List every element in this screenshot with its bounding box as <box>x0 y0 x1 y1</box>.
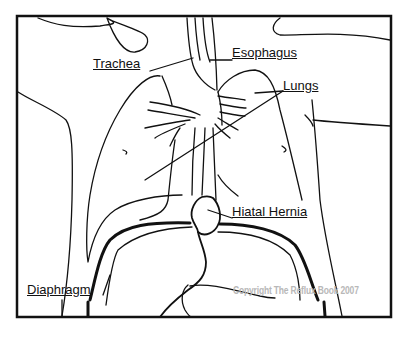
label-esophagus: Esophagus <box>232 46 297 60</box>
label-trachea: Trachea <box>93 57 140 71</box>
label-diaphragm: Diaphragm <box>27 283 91 297</box>
copyright-text: Copyright The Reflux Book 2007 <box>233 285 359 296</box>
label-lungs: Lungs <box>283 79 318 93</box>
right-leg-thick <box>324 302 325 316</box>
label-hiatal-hernia: Hiatal Hernia <box>232 205 307 219</box>
